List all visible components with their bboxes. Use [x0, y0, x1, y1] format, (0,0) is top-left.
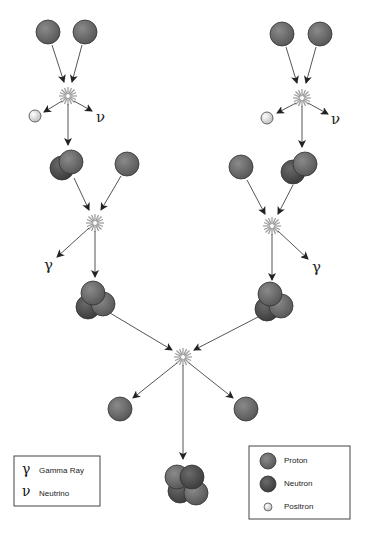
arrow	[101, 176, 121, 210]
arrow	[277, 103, 296, 113]
arrow	[278, 185, 293, 214]
helium-4-nucleus	[165, 465, 208, 505]
legend-label-neutrino: Neutrino	[39, 489, 70, 498]
pp-chain-diagram: ν γ ν	[0, 0, 367, 538]
legend-particles: Proton Neutron Positron	[249, 446, 350, 519]
reaction-burst-icon	[263, 217, 281, 235]
legend-symbols: γ Gamma Ray ν Neutrino	[14, 456, 100, 506]
arrow	[133, 363, 177, 398]
gamma-symbol: γ	[312, 258, 321, 276]
legend-label-neutron: Neutron	[284, 479, 312, 488]
arrow	[286, 47, 297, 83]
neutrino-symbol: ν	[22, 483, 31, 499]
proton-particle	[73, 20, 97, 44]
neutrino-symbol: ν	[96, 108, 105, 126]
legend-label-positron: Positron	[284, 502, 313, 511]
arrow	[72, 45, 82, 82]
arrow	[110, 313, 172, 350]
final-stage	[108, 313, 258, 505]
proton-particle	[36, 20, 60, 44]
arrow	[52, 45, 64, 82]
proton-particle	[229, 155, 253, 179]
right-branch: ν γ	[229, 22, 340, 321]
helium-3-nucleus	[255, 282, 293, 321]
arrow	[194, 317, 258, 350]
proton-swatch-icon	[260, 453, 276, 469]
proton-particle	[308, 22, 332, 46]
arrow	[74, 101, 92, 111]
gamma-symbol: γ	[44, 256, 53, 274]
deuterium-nucleus	[281, 152, 317, 184]
gamma-symbol: γ	[22, 461, 30, 477]
proton-particle	[115, 152, 139, 176]
proton-particle	[270, 22, 294, 46]
deuterium-nucleus	[50, 150, 83, 180]
proton-particle	[108, 397, 132, 421]
arrow	[189, 363, 233, 398]
arrow	[278, 231, 308, 259]
arrow	[247, 180, 265, 214]
arrow	[57, 228, 89, 257]
reaction-burst-icon	[86, 214, 104, 232]
positron-swatch-icon	[264, 503, 272, 511]
arrow	[44, 101, 62, 112]
proton-particle	[234, 397, 258, 421]
helium-3-nucleus	[76, 281, 115, 319]
arrow	[74, 178, 89, 210]
legend-label-gamma: Gamma Ray	[39, 466, 84, 475]
reaction-burst-icon	[293, 89, 311, 107]
left-branch: ν γ	[29, 20, 139, 319]
arrow	[306, 47, 316, 83]
positron-particle	[261, 112, 273, 124]
positron-particle	[29, 110, 41, 122]
neutron-swatch-icon	[260, 476, 276, 492]
reaction-burst-icon	[59, 87, 77, 105]
arrow	[308, 103, 328, 114]
legend-label-proton: Proton	[284, 456, 308, 465]
neutrino-symbol: ν	[331, 110, 340, 128]
